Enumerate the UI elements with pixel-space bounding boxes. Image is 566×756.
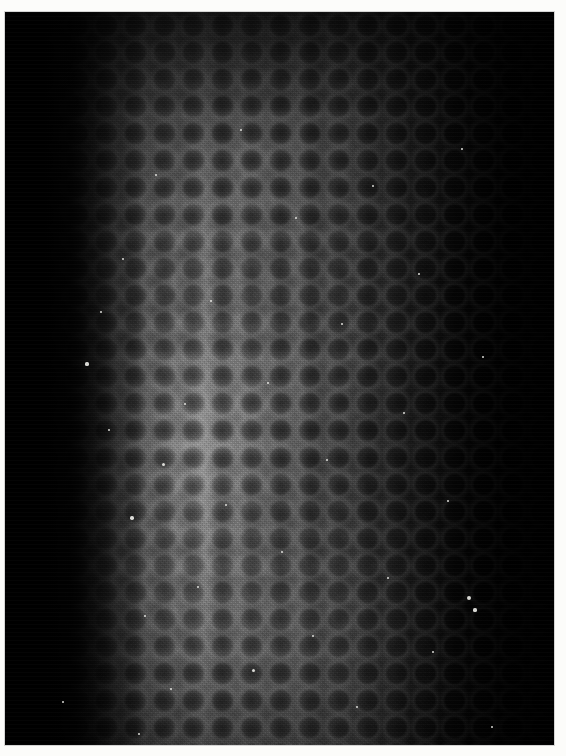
- photograph: [5, 12, 554, 745]
- print-sheen-layer: [5, 12, 554, 745]
- page-root: [0, 0, 566, 756]
- photo-caption: [10, 734, 554, 745]
